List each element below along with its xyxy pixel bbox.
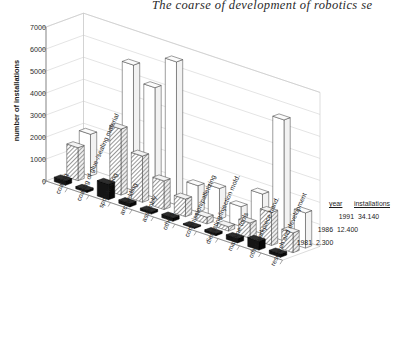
chart-figure: The coarse of development of robotics se… bbox=[0, 0, 395, 343]
chart-plot-area bbox=[0, 0, 395, 343]
